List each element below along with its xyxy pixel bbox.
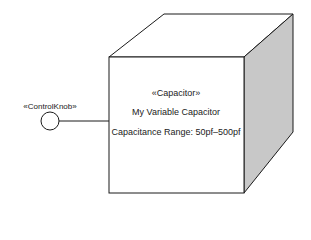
interface-label: «ControlKnob» xyxy=(23,102,76,111)
node-stereotype: «Capacitor» xyxy=(152,88,201,98)
interface-lollipop-icon[interactable] xyxy=(41,112,59,130)
node-front-face[interactable] xyxy=(109,57,244,193)
node-name: My Variable Capacitor xyxy=(132,107,220,117)
node-attribute: Capacitance Range: 50pf–500pf xyxy=(111,127,240,137)
